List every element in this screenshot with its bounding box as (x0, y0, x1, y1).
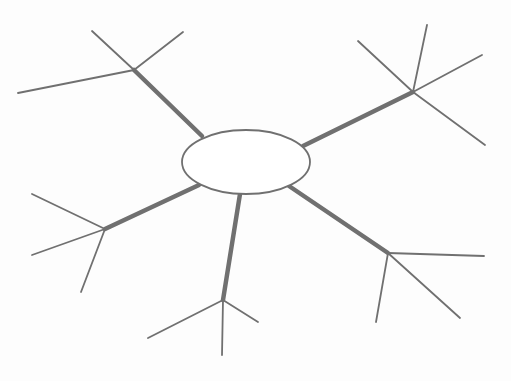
spoke-to-top-right (303, 92, 413, 146)
network-diagram (0, 0, 511, 381)
twig-top-right-b (413, 25, 427, 92)
twig-top-right-c (413, 55, 482, 92)
twig-bottom-c (223, 300, 258, 322)
twig-left-b (32, 229, 105, 255)
spoke-to-top-left (134, 70, 202, 136)
spoke-to-bottom-right (289, 186, 388, 253)
twig-top-left-a (92, 31, 134, 70)
twig-bottom-right-a (388, 253, 484, 256)
diagram-canvas (0, 0, 511, 381)
twig-bottom-right-b (388, 253, 460, 318)
twig-top-left-b (134, 32, 183, 70)
twig-bottom-b (222, 300, 223, 355)
spoke-to-left (105, 185, 199, 229)
twig-left-c (81, 229, 105, 292)
twig-top-right-a (358, 41, 413, 92)
hub-layer (182, 130, 310, 194)
spoke-to-bottom (223, 194, 240, 300)
twig-top-left-c (18, 70, 134, 93)
central-hub (182, 130, 310, 194)
twig-top-right-d (413, 92, 485, 145)
twig-bottom-right-c (376, 253, 388, 322)
twig-bottom-a (148, 300, 223, 338)
twig-left-a (32, 194, 105, 229)
